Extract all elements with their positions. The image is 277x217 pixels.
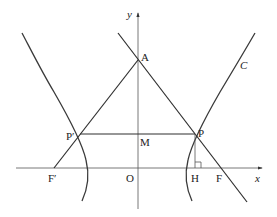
point-A-label: A [141, 51, 149, 63]
curve-C-label: C [240, 59, 248, 71]
y-axis-label: y [126, 8, 132, 20]
hyperbola-diagram: y x O A P P′ M H F F′ C [0, 0, 277, 217]
point-P-label: P [198, 127, 204, 139]
line-AF [118, 33, 247, 202]
x-axis-label: x [254, 172, 260, 184]
point-M-label: M [140, 136, 150, 148]
point-Pprime-label: P′ [66, 130, 75, 142]
origin-label: O [126, 172, 134, 184]
point-F-label: F [216, 172, 222, 184]
right-angle-mark [195, 162, 201, 168]
point-H-label: H [191, 172, 199, 184]
point-Fprime-label: F′ [48, 172, 57, 184]
